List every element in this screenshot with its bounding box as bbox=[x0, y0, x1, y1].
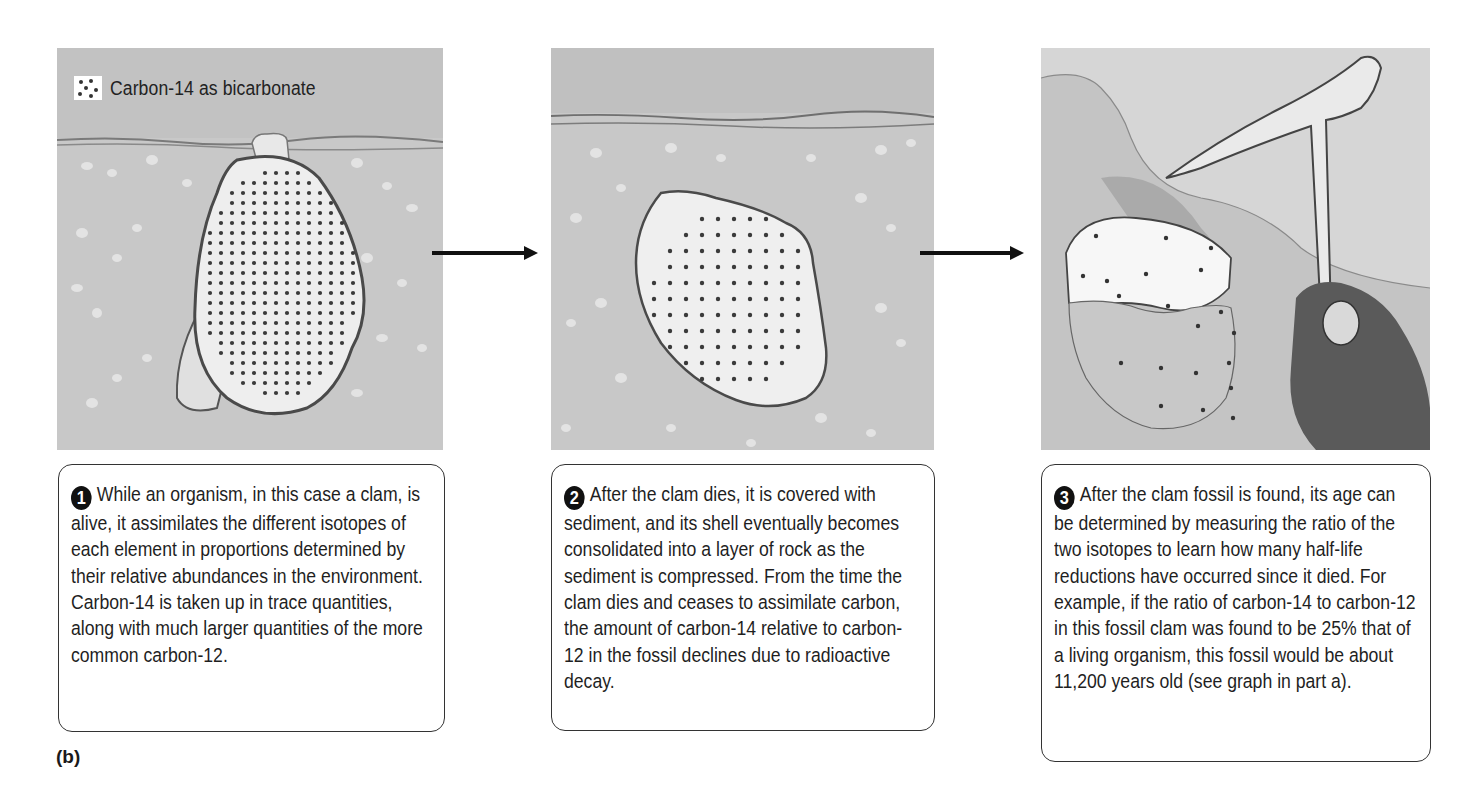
living-clam-illustration bbox=[57, 48, 443, 450]
buried-clam-illustration bbox=[551, 48, 934, 450]
step-number-badge: 2 bbox=[564, 486, 585, 510]
panel-fossil-found bbox=[1041, 48, 1430, 450]
step-2-text: 2After the clam dies, it is covered with… bbox=[564, 481, 921, 694]
right-arrow-icon bbox=[430, 244, 540, 262]
fossil-hammer-illustration bbox=[1041, 48, 1430, 450]
panel-buried-clam bbox=[551, 48, 934, 450]
step-number-badge: 1 bbox=[71, 486, 92, 510]
step-1-caption: 1While an organism, in this case a clam,… bbox=[58, 464, 445, 732]
step-3-text: 3After the clam fossil is found, its age… bbox=[1054, 481, 1417, 694]
legend-label: Carbon-14 as bicarbonate bbox=[110, 77, 316, 100]
figure-part-label: (b) bbox=[56, 746, 80, 768]
right-arrow-icon bbox=[918, 244, 1026, 262]
panel-living-clam: Carbon-14 as bicarbonate bbox=[57, 48, 443, 450]
step-number-badge: 3 bbox=[1054, 486, 1075, 510]
dotted-square-icon bbox=[74, 76, 102, 100]
step-3-caption: 3After the clam fossil is found, its age… bbox=[1041, 464, 1431, 762]
step-1-text: 1While an organism, in this case a clam,… bbox=[71, 481, 431, 668]
legend: Carbon-14 as bicarbonate bbox=[74, 76, 344, 100]
step-2-caption: 2After the clam dies, it is covered with… bbox=[551, 464, 935, 731]
